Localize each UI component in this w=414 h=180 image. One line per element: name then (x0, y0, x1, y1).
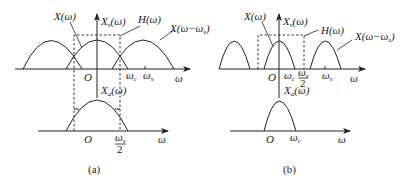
spectrum-left-replica (219, 41, 250, 69)
label-omega-axis: ω (350, 72, 358, 84)
panel-b: X(ω) Xs(ω) H(ω) X(ω−ωs) O ωc ωs 2 ωs ω X… (219, 10, 395, 176)
spectrum-right-replica (112, 40, 174, 69)
sampling-spectrum-figure: X(ω) Xs(ω) H(ω) X(ω−ωs) O ωc ωs ω Xa(ω) … (0, 0, 414, 180)
label-X: X(ω) (243, 10, 266, 23)
label-origin: O (268, 71, 276, 83)
label-omega-axis: ω (175, 72, 183, 84)
label-origin: O (84, 71, 92, 83)
spectrum-left-replica (23, 41, 82, 70)
panel-a-bottom-plot: Xa(ω) O ωs 2 ω (38, 84, 168, 155)
panel-a-top-plot: X(ω) Xs(ω) H(ω) X(ω−ωs) O ωc ωs ω (15, 10, 210, 131)
caption-a: (a) (88, 163, 101, 176)
label-X-shifted: X(ω−ωs) (354, 30, 395, 44)
lowpass-filter-H (258, 35, 304, 69)
label-H: H(ω) (137, 13, 161, 26)
label-ws: ωs (322, 69, 333, 83)
label-origin: O (84, 133, 92, 145)
label-X-shifted: X(ω−ωs) (169, 22, 210, 36)
label-omega-axis: ω (338, 133, 346, 145)
label-wc: ωc (290, 131, 302, 145)
leader-X (70, 22, 82, 48)
reconstructed-spectrum (264, 101, 296, 131)
label-H: H(ω) (320, 24, 344, 37)
label-Xa: Xa(ω) (100, 84, 127, 98)
label-Xs: Xs(ω) (100, 15, 126, 29)
label-origin: O (266, 133, 274, 145)
leader-Xshift (337, 40, 352, 50)
reconstructed-spectrum-aliased (66, 100, 128, 131)
spectrum-right-replica (310, 41, 341, 69)
panel-a: X(ω) Xs(ω) H(ω) X(ω−ωs) O ωc ωs ω Xa(ω) … (15, 10, 210, 176)
label-ws: ωs (143, 69, 154, 83)
label-X: X(ω) (53, 10, 76, 23)
panel-b-bottom-plot: Xa(ω) O ωc ω (230, 84, 350, 145)
label-omega-axis: ω (158, 133, 166, 145)
label-ws-half-den: 2 (117, 143, 123, 155)
leader-X (262, 22, 273, 46)
label-Xs: Xs(ω) (282, 15, 308, 29)
label-Xa: Xa(ω) (283, 84, 310, 98)
leader-H (120, 26, 140, 36)
label-wc: ωc (284, 69, 296, 83)
caption-b: (b) (283, 163, 296, 176)
leader-H (304, 30, 318, 36)
label-wc: ωc (126, 69, 138, 83)
